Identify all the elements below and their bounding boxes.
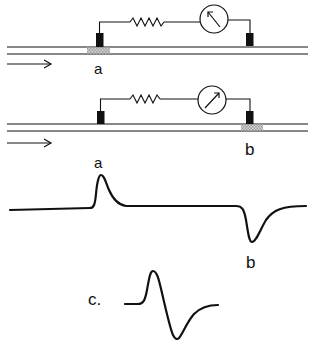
label-b-middle: b [245, 140, 254, 159]
panel-top: a [7, 5, 308, 77]
diagram-canvas: a b a b c. [0, 0, 312, 348]
label-c: c. [88, 290, 101, 309]
trace-ab: a b [10, 154, 306, 272]
label-a-peak: a [94, 154, 103, 171]
electrode-a [97, 111, 105, 124]
direction-arrow-icon [7, 60, 51, 68]
nerve-fiber [7, 47, 308, 54]
direction-arrow-icon [7, 139, 51, 147]
resistor-icon [130, 18, 164, 26]
galvanometer-icon [198, 86, 226, 114]
electrode-b [246, 111, 254, 124]
circuit-wire [101, 95, 251, 111]
resistor-icon [130, 95, 160, 103]
electrode-a [96, 33, 104, 47]
panel-middle: b [7, 86, 308, 159]
galvanometer-icon [200, 5, 228, 33]
active-region-a [87, 48, 110, 54]
trace-c: c. [88, 271, 218, 339]
active-region-b [241, 125, 263, 131]
label-a-top: a [94, 60, 103, 77]
electrode-b [246, 33, 254, 46]
label-b-trough: b [246, 253, 255, 272]
